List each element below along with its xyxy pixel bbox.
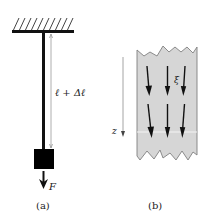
material-strip [137,46,197,160]
caption-b: (b) [148,200,162,211]
z-axis-arrow [121,57,125,137]
panel-b: z ξ (b) [111,46,197,211]
rod [42,32,45,150]
caption-a: (a) [36,200,50,211]
length-dimension-line [50,34,53,148]
force-arrow-icon [39,171,48,189]
length-label: ℓ + Δℓ [55,87,85,98]
panel-a: ℓ + Δℓ F (a) [12,18,85,211]
ceiling-hatch [13,18,73,31]
mass-block [34,149,54,169]
z-axis-label: z [111,126,117,136]
figure: ℓ + Δℓ F (a) z ξ [0,0,210,219]
force-label: F [48,181,57,192]
